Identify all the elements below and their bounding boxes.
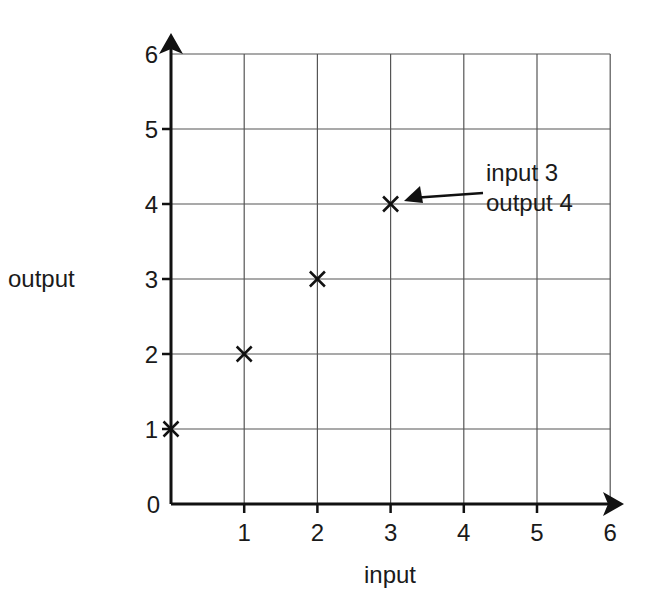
y-tick-label: 0 <box>147 491 160 518</box>
x-tick-label: 5 <box>530 519 543 546</box>
scatter-chart: 1234560123456 input 3 output 4 input out… <box>0 0 649 614</box>
x-tick-label: 3 <box>384 519 397 546</box>
x-tick-label: 6 <box>604 519 617 546</box>
x-tick-label: 2 <box>311 519 324 546</box>
x-tick-label: 4 <box>457 519 470 546</box>
y-tick-label: 3 <box>145 266 158 293</box>
y-tick-label: 2 <box>145 341 158 368</box>
y-tick-label: 4 <box>145 191 158 218</box>
x-axis-title: input <box>364 561 416 588</box>
annotation-line-2: output 4 <box>486 189 573 216</box>
annotation-line-1: input 3 <box>486 159 558 186</box>
y-axis-title: output <box>8 265 75 292</box>
tick-labels: 1234560123456 <box>145 41 617 546</box>
grid-lines <box>171 54 610 504</box>
axes <box>159 33 624 516</box>
arrow-head-icon <box>404 186 423 203</box>
data-points <box>164 197 399 437</box>
x-tick-label: 1 <box>238 519 251 546</box>
annotation-arrow <box>412 193 483 198</box>
y-tick-label: 1 <box>145 416 158 443</box>
y-tick-label: 6 <box>145 41 158 68</box>
annotation: input 3 output 4 <box>404 159 573 216</box>
y-tick-label: 5 <box>145 116 158 143</box>
